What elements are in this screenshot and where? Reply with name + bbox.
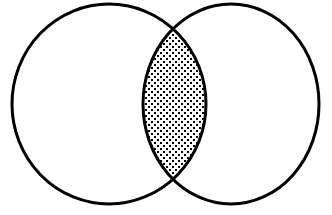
venn-diagram	[0, 0, 332, 215]
